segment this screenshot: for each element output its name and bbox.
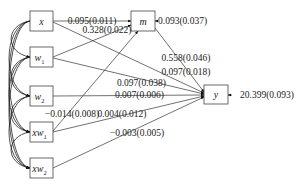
coefficient-labels: 0.095(0.011)0.328(0.022)0.558(0.046)0.09… bbox=[45, 16, 294, 139]
path-diagram: xw1w2xw1xw2my 0.095(0.011)0.328(0.022)0.… bbox=[0, 0, 305, 185]
node-y: y bbox=[204, 85, 228, 104]
node-subscript-xw1: 1 bbox=[43, 133, 46, 140]
covariance-x-w2 bbox=[9, 21, 30, 96]
node-w2: w2 bbox=[30, 86, 53, 106]
node-label-y: y bbox=[213, 89, 219, 100]
residual-label-y: 20.399(0.093) bbox=[240, 90, 294, 101]
node-label-x: x bbox=[38, 16, 44, 27]
node-subscript-w2: 2 bbox=[41, 97, 44, 104]
node-subscript-w1: 1 bbox=[41, 58, 44, 65]
node-xw2: xw2 bbox=[30, 158, 53, 178]
node-subscript-xw2: 2 bbox=[43, 169, 46, 176]
edge-label-xw2-to-y: −0.003(0.005) bbox=[110, 128, 164, 139]
node-w1: w1 bbox=[30, 47, 53, 67]
edge-label-w1-to-y: 0.097(0.038) bbox=[117, 78, 166, 89]
covariance-w1-xw1 bbox=[9, 57, 30, 132]
node-xw1: xw1 bbox=[30, 122, 53, 142]
edge-label-xw1-to-y: 0.004(0.012) bbox=[97, 109, 146, 120]
residual-label-m: 0.093(0.037) bbox=[158, 16, 207, 27]
edge-label-m-to-y: 0.558(0.046) bbox=[161, 53, 210, 64]
edge-label-x-to-y: 0.097(0.018) bbox=[161, 67, 210, 78]
covariance-curves bbox=[9, 21, 30, 168]
node-x: x bbox=[30, 11, 53, 31]
node-m: m bbox=[131, 11, 155, 31]
node-label-m: m bbox=[139, 16, 146, 27]
edge-label-w1-to-m: 0.328(0.022) bbox=[82, 25, 131, 36]
edge-label-w2-to-y: 0.007(0.006) bbox=[115, 90, 164, 101]
edge-label-xw1-to-m: −0.014(0.008) bbox=[45, 109, 99, 120]
covariance-x-xw2 bbox=[9, 21, 30, 168]
